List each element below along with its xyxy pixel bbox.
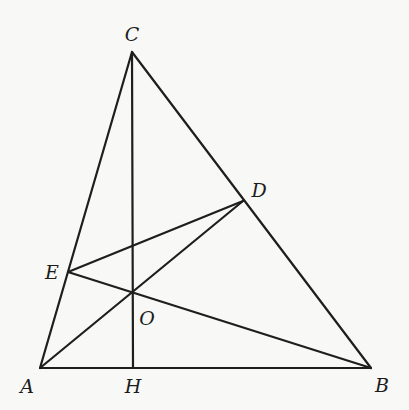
label-e: E: [45, 263, 59, 282]
segment-ca: [40, 52, 132, 368]
segment-be: [68, 272, 371, 368]
label-c: C: [125, 25, 140, 44]
label-b: B: [375, 376, 389, 395]
segment-ad: [40, 201, 243, 368]
segment-ch: [132, 52, 133, 368]
label-o: O: [139, 309, 155, 328]
label-h: H: [125, 377, 142, 396]
geometry-diagram: C D E O A H B: [0, 0, 409, 410]
label-a: A: [20, 377, 34, 396]
segment-bc: [132, 52, 371, 368]
segment-ed: [68, 201, 243, 272]
label-d: D: [251, 181, 266, 200]
triangle-figure: [0, 0, 409, 410]
